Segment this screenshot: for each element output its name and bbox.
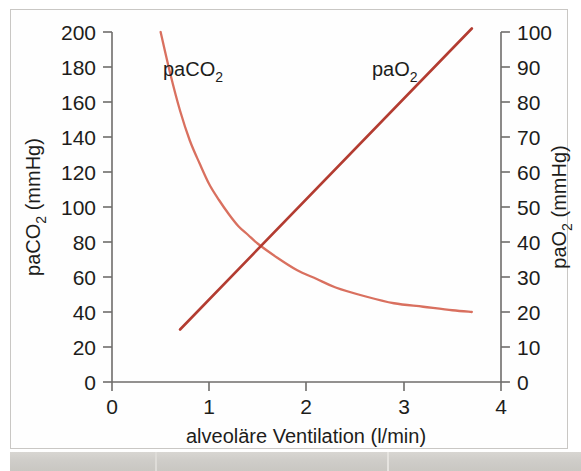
y-left-title-prefix: paCO (22, 224, 44, 276)
y-axis-left-tick-labels: 200 180 160 140 120 100 80 60 40 20 0 (61, 21, 96, 394)
x-axis-ticks (112, 382, 501, 391)
y-right-tick-label: 80 (517, 91, 540, 114)
y-right-tick-label: 0 (517, 371, 529, 394)
y-axis-right-title-group: paO2 (mmHg) (548, 145, 575, 268)
y-right-tick-label: 60 (517, 161, 540, 184)
y-left-tick-label: 40 (73, 301, 96, 324)
paco2-label-subscript: 2 (215, 69, 223, 85)
scan-bottom-strip (10, 452, 581, 471)
x-tick-label: 0 (106, 395, 118, 418)
y-left-title-suffix: (mmHg) (22, 138, 44, 216)
y-axis-right-ticks (501, 32, 510, 382)
y-right-title-prefix: paO (548, 231, 570, 269)
y-right-tick-label: 30 (517, 266, 540, 289)
pao2-series-label: paO2 (372, 58, 418, 85)
y-left-tick-label: 140 (61, 126, 96, 149)
y-right-tick-label: 40 (517, 231, 540, 254)
y-left-tick-label: 160 (61, 91, 96, 114)
axis-lines (112, 32, 501, 382)
y-right-tick-label: 20 (517, 301, 540, 324)
y-axis-left-ticks (103, 32, 112, 382)
paco2-label-prefix: paCO (163, 58, 215, 80)
y-left-tick-label: 0 (84, 371, 96, 394)
x-axis-title: alveoläre Ventilation (l/min) (186, 425, 426, 447)
y-right-title-subscript: 2 (559, 223, 575, 231)
x-tick-label: 1 (203, 395, 215, 418)
y-left-tick-label: 60 (73, 266, 96, 289)
x-axis-tick-labels: 0 1 2 3 4 (106, 395, 507, 418)
y-axis-left-title: paCO2 (mmHg) (22, 138, 49, 276)
y-axis-right-title: paO2 (mmHg) (548, 145, 575, 268)
y-axis-left-title-group: paCO2 (mmHg) (22, 138, 49, 276)
chart-canvas: 200 180 160 140 120 100 80 60 40 20 0 (0, 0, 581, 471)
y-right-tick-label: 100 (517, 21, 552, 44)
y-right-tick-label: 70 (517, 126, 540, 149)
pao2-label-prefix: paO (372, 58, 410, 80)
x-tick-label: 2 (300, 395, 312, 418)
y-left-tick-label: 20 (73, 336, 96, 359)
scan-seam-right (387, 452, 389, 471)
y-left-tick-label: 80 (73, 231, 96, 254)
y-left-tick-label: 120 (61, 161, 96, 184)
pao2-label-subscript: 2 (410, 69, 418, 85)
y-left-tick-label: 200 (61, 21, 96, 44)
y-right-tick-label: 10 (517, 336, 540, 359)
x-tick-label: 4 (495, 395, 507, 418)
y-right-title-suffix: (mmHg) (548, 145, 570, 223)
scan-seam-left (155, 452, 157, 471)
y-left-tick-label: 180 (61, 56, 96, 79)
y-left-tick-label: 100 (61, 196, 96, 219)
y-right-tick-label: 50 (517, 196, 540, 219)
figure-root: 200 180 160 140 120 100 80 60 40 20 0 (0, 0, 581, 471)
y-left-title-subscript: 2 (33, 216, 49, 224)
y-right-tick-label: 90 (517, 56, 540, 79)
x-tick-label: 3 (398, 395, 410, 418)
y-axis-right-tick-labels: 100 90 80 70 60 50 40 30 20 10 0 (517, 21, 552, 394)
